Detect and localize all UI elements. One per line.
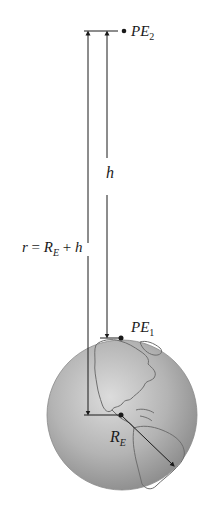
pe1-point (119, 336, 124, 341)
h-label: h (106, 164, 114, 181)
pe2-point (122, 29, 127, 34)
potential-energy-diagram: PE2 h r = RE + h PE1 RE (0, 0, 207, 511)
pe2-label: PE2 (130, 23, 154, 42)
r-equation-label: r = RE + h (22, 239, 83, 258)
pe1-label: PE1 (130, 319, 154, 338)
